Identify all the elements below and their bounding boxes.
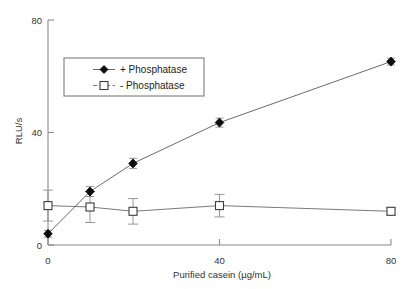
legend-item-minus-phosphatase[interactable]: - Phosphatase bbox=[93, 80, 185, 91]
data-point bbox=[215, 118, 224, 127]
data-point bbox=[387, 207, 395, 215]
x-tick-label-0: 0 bbox=[45, 255, 50, 266]
legend-label-minus-phosphatase: - Phosphatase bbox=[120, 80, 185, 91]
data-point bbox=[216, 202, 224, 210]
data-point bbox=[129, 207, 137, 215]
data-point bbox=[129, 159, 138, 168]
legend-label-plus-phosphatase: + Phosphatase bbox=[120, 64, 187, 75]
x-tick-label-40: 40 bbox=[214, 255, 225, 266]
legend-marker-open-square bbox=[100, 82, 108, 90]
y-axis-title: RLU/s bbox=[13, 118, 24, 145]
series-minus-phosphatase bbox=[43, 190, 396, 224]
y-tick-label-80: 80 bbox=[31, 15, 42, 26]
x-axis-title: Purified casein (µg/mL) bbox=[173, 269, 271, 280]
chart-figure: 80 40 0 0 40 80 RLU/s Purified casein (µ… bbox=[0, 0, 409, 289]
y-tick-label-0: 0 bbox=[37, 240, 42, 251]
tick-labels-group: 80 40 0 0 40 80 bbox=[31, 15, 396, 267]
x-tick-label-80: 80 bbox=[386, 255, 397, 266]
chart-canvas: 80 40 0 0 40 80 RLU/s Purified casein (µ… bbox=[0, 0, 409, 289]
data-point bbox=[44, 202, 52, 210]
y-tick-label-40: 40 bbox=[31, 127, 42, 138]
chart-legend[interactable]: + Phosphatase - Phosphatase bbox=[64, 58, 204, 96]
data-point bbox=[86, 203, 94, 211]
